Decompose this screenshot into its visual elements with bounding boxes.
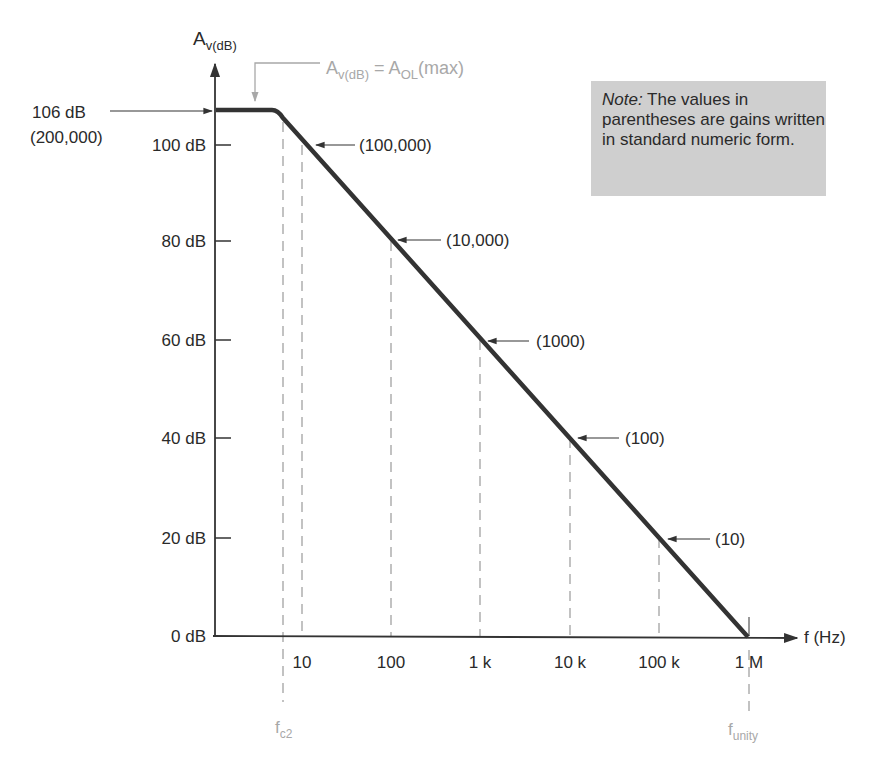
note-box: Note: The values in parentheses are gain… <box>591 81 826 196</box>
svg-text:100 k: 100 k <box>638 653 680 672</box>
svg-text:(10,000): (10,000) <box>446 231 509 250</box>
svg-text:(10): (10) <box>715 530 745 549</box>
svg-text:10 k: 10 k <box>554 653 587 672</box>
svg-text:(1000): (1000) <box>536 332 585 351</box>
svg-text:60 dB: 60 dB <box>162 331 206 350</box>
top-gain-numeric: (200,000) <box>30 128 103 147</box>
y-tick-labels: 100 dB 80 dB 60 dB 40 dB 20 dB 0 dB <box>152 136 206 646</box>
svg-text:20 dB: 20 dB <box>162 529 206 548</box>
x-axis-label: f (Hz) <box>804 628 846 647</box>
fc2-label: fc2 <box>275 718 293 741</box>
svg-text:1 k: 1 k <box>469 653 492 672</box>
svg-text:100 dB: 100 dB <box>152 136 206 155</box>
svg-text:0 dB: 0 dB <box>171 627 206 646</box>
point-annotations: (100,000) (10,000) (1000) (100) (10) <box>316 136 745 549</box>
svg-text:100: 100 <box>377 653 405 672</box>
max-gain-pointer <box>255 63 320 101</box>
funity-label: funity <box>728 720 758 743</box>
svg-text:10: 10 <box>293 653 312 672</box>
y-ticks <box>215 145 231 538</box>
svg-text:80 dB: 80 dB <box>162 232 206 251</box>
x-axis <box>213 636 797 638</box>
note-prefix: Note: <box>602 90 643 109</box>
svg-text:(100,000): (100,000) <box>359 136 432 155</box>
svg-text:(100): (100) <box>625 429 665 448</box>
x-tick-labels: 10 100 1 k 10 k 100 k 1 M <box>293 653 764 672</box>
svg-text:40 dB: 40 dB <box>162 429 206 448</box>
y-axis-label: Av(dB) <box>193 28 237 53</box>
svg-text:1 M: 1 M <box>735 653 763 672</box>
max-gain-annotation: Av(dB) = AOL(max) <box>326 58 464 82</box>
top-gain-db: 106 dB <box>32 103 86 122</box>
dashed-guides <box>283 122 749 712</box>
